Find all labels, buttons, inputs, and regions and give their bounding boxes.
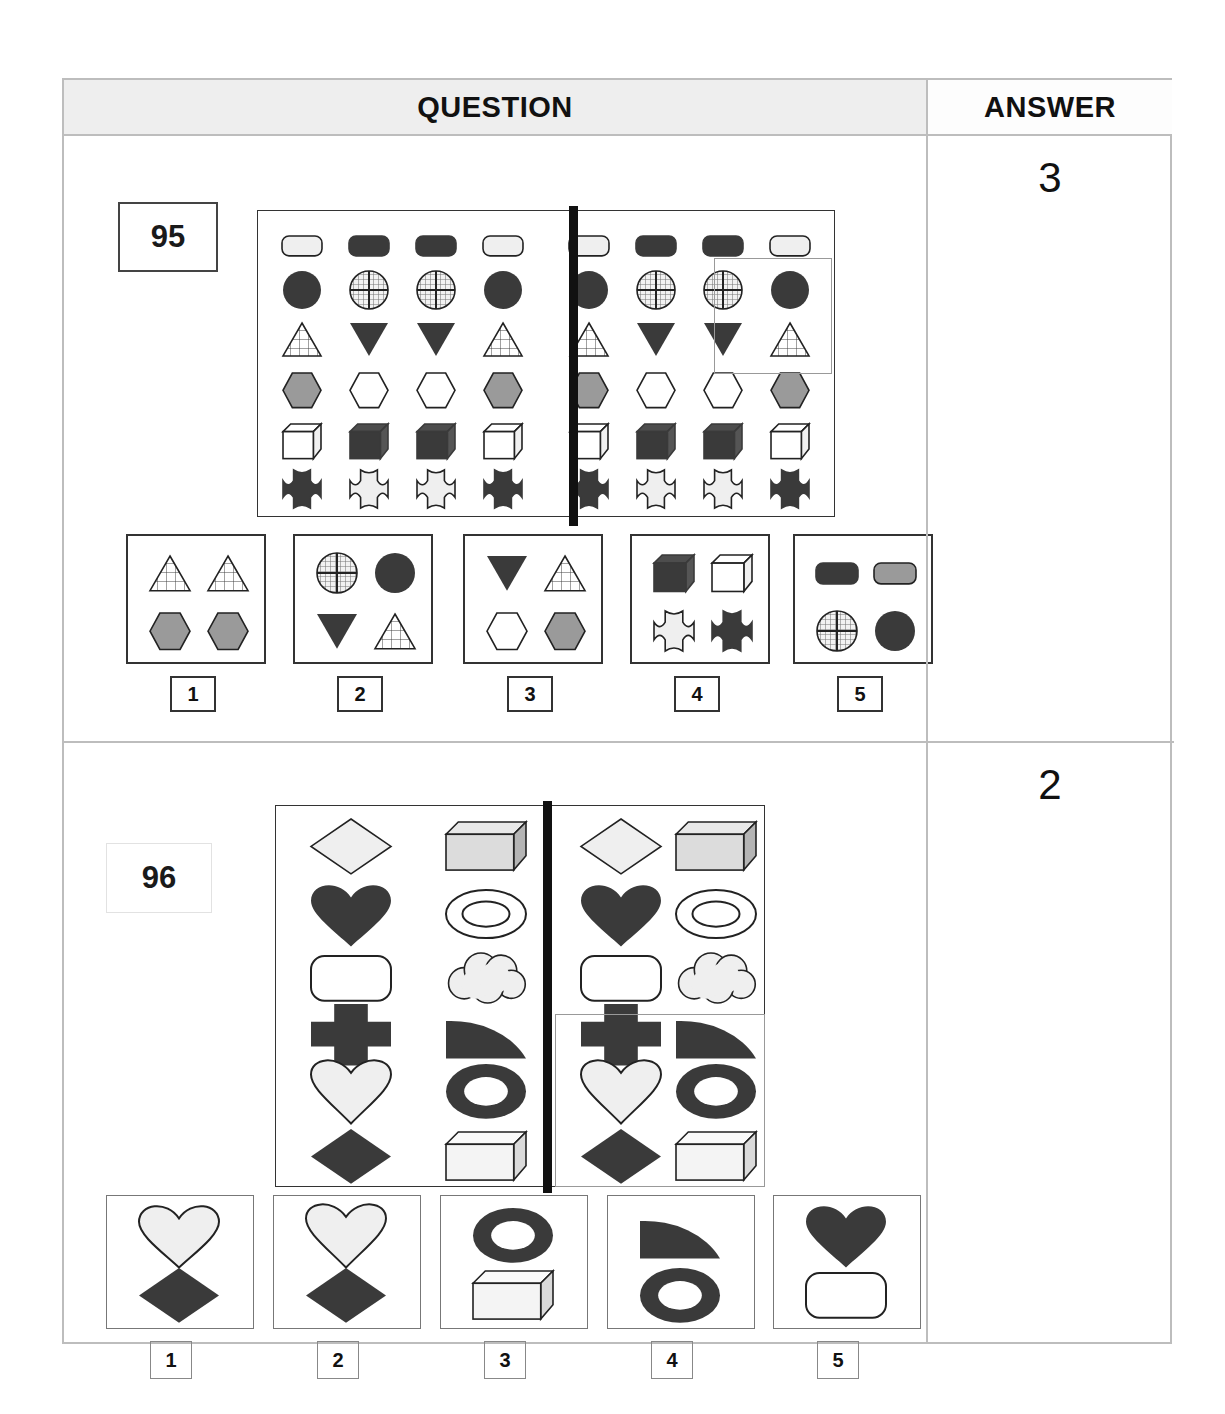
question-column-label: QUESTION — [417, 91, 572, 124]
shape-box3d-white — [471, 1266, 555, 1324]
shape-triangle-up-grid — [373, 608, 417, 654]
shape-circle-crosshatch — [815, 608, 859, 654]
shape-cross-dark — [479, 466, 527, 512]
option-box-1[interactable] — [106, 1195, 254, 1329]
shape-ring-dark — [471, 1206, 555, 1264]
question-number-96: 96 — [106, 843, 212, 913]
shape-triangle-down-dark — [485, 550, 529, 596]
shape-heart-dark-round — [804, 1206, 888, 1264]
header-cell-answer: ANSWER — [926, 80, 1172, 134]
option-box-4[interactable] — [607, 1195, 755, 1329]
shape-ellipse-ring-outline — [441, 884, 531, 944]
answer-value-95: 3 — [928, 154, 1172, 202]
shape-hexagon-white — [345, 367, 393, 413]
shape-diamond-dark — [137, 1266, 221, 1324]
shape-circle-dark — [278, 267, 326, 313]
shape-heart-dark-round — [576, 884, 666, 944]
option-number-1[interactable]: 1 — [170, 676, 216, 712]
shape-cube-dark — [632, 418, 680, 464]
shape-ellipse-ring-outline — [671, 884, 761, 944]
option-box-5[interactable] — [773, 1195, 921, 1329]
question-row-96: 96 12345 2 — [64, 743, 1174, 1344]
shape-ring-dark — [441, 1061, 531, 1121]
shape-box3d-gray — [441, 816, 531, 876]
shape-roundrect-white — [306, 948, 396, 1008]
shape-rect-dark — [412, 223, 460, 269]
table-header: QUESTION ANSWER — [64, 80, 1170, 136]
shape-cube-dark — [699, 418, 747, 464]
shape-cross-light — [699, 466, 747, 512]
shape-rect-dark — [345, 223, 393, 269]
shape-heart-dark-round — [306, 884, 396, 944]
shape-circle-dark — [479, 267, 527, 313]
shape-box3d-gray — [671, 816, 761, 876]
option-number-2[interactable]: 2 — [337, 676, 383, 712]
option-number-3[interactable]: 3 — [507, 676, 553, 712]
option-box-5[interactable] — [793, 534, 933, 664]
shape-ring-dark — [638, 1266, 722, 1324]
option-number-4[interactable]: 4 — [651, 1341, 693, 1379]
shape-cube-white — [278, 418, 326, 464]
shape-circle-crosshatch — [632, 267, 680, 313]
shape-rect-light — [479, 223, 527, 269]
shape-box3d-white — [441, 1126, 531, 1186]
shape-triangle-up-grid — [278, 316, 326, 362]
option-box-1[interactable] — [126, 534, 266, 664]
shape-diamond-light — [576, 816, 666, 876]
option-number-4[interactable]: 4 — [674, 676, 720, 712]
option-box-2[interactable] — [273, 1195, 421, 1329]
shape-diamond-dark — [304, 1266, 388, 1324]
shape-triangle-down-dark — [345, 316, 393, 362]
shape-circle-crosshatch — [345, 267, 393, 313]
option-number-3[interactable]: 3 — [484, 1341, 526, 1379]
shape-roundrect-white — [576, 948, 666, 1008]
shape-cube-white — [710, 550, 754, 596]
answer-cell-96: 2 — [926, 743, 1172, 1344]
question-row-95: 95 12345 3 — [64, 136, 1174, 743]
shape-rect-dark — [632, 223, 680, 269]
shape-cross-dark — [710, 608, 754, 654]
shape-rect-gray — [873, 550, 917, 596]
shape-cube-white — [766, 418, 814, 464]
shape-rect-light — [278, 223, 326, 269]
option-box-4[interactable] — [630, 534, 770, 664]
shape-cross-light — [412, 466, 460, 512]
shape-cube-dark — [652, 550, 696, 596]
option-number-2[interactable]: 2 — [317, 1341, 359, 1379]
option-box-2[interactable] — [293, 534, 433, 664]
shape-roundrect-white — [804, 1266, 888, 1324]
matrix-divider-96 — [543, 801, 552, 1193]
shape-quartercircle-dark — [638, 1206, 722, 1264]
option-number-5[interactable]: 5 — [817, 1341, 859, 1379]
shape-heart-round-outline — [137, 1206, 221, 1264]
shape-cross-light — [652, 608, 696, 654]
option-number-1[interactable]: 1 — [150, 1341, 192, 1379]
matrix-highlight-96 — [555, 1014, 765, 1187]
shape-diamond-light — [306, 816, 396, 876]
option-box-3[interactable] — [463, 534, 603, 664]
worksheet-page: QUESTION ANSWER 95 12345 3 96 12345 2 — [62, 78, 1172, 1344]
shape-cube-dark — [345, 418, 393, 464]
shape-cloud-light — [671, 948, 761, 1008]
shape-diamond-dark — [306, 1126, 396, 1186]
shape-cross-dark — [766, 466, 814, 512]
shape-hexagon-white — [485, 608, 529, 654]
shape-cube-dark — [412, 418, 460, 464]
matrix-divider-95 — [569, 206, 578, 526]
shape-circle-crosshatch — [412, 267, 460, 313]
shape-hexagon-gray — [148, 608, 192, 654]
shape-heart-light-outline — [306, 1061, 396, 1121]
shape-hexagon-white — [412, 367, 460, 413]
shape-triangle-down-dark — [412, 316, 460, 362]
shape-hexagon-white — [632, 367, 680, 413]
option-box-3[interactable] — [440, 1195, 588, 1329]
shape-cube-white — [479, 418, 527, 464]
shape-circle-crosshatch — [315, 550, 359, 596]
option-number-5[interactable]: 5 — [837, 676, 883, 712]
shape-cross-light — [345, 466, 393, 512]
shape-hexagon-gray — [206, 608, 250, 654]
shape-triangle-up-grid — [543, 550, 587, 596]
shape-hexagon-gray — [479, 367, 527, 413]
question-cell-95: 95 12345 — [64, 136, 926, 741]
answer-column-label: ANSWER — [984, 91, 1116, 124]
